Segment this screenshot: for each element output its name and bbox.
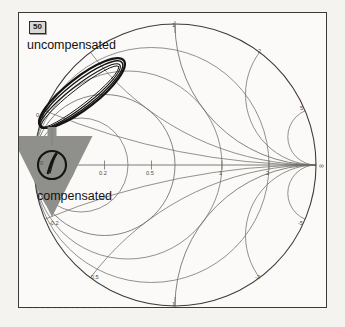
boundary-label-2-lower: -2 <box>255 274 260 280</box>
axis-ticks <box>105 21 270 307</box>
reactance-arc-p0p2 <box>19 13 326 165</box>
reactance-arc-p0p5 <box>34 13 326 165</box>
reactance-arc-p5 <box>288 109 326 165</box>
tick-label-2: 2 <box>266 170 269 176</box>
boundary-label-bottom-1: 1 <box>172 301 175 307</box>
reactance-arc-n1 <box>175 165 326 307</box>
compensated-label: compensated <box>37 189 112 203</box>
reference-impedance-badge: 50 <box>29 21 46 34</box>
tick-label-1: 1 <box>219 170 222 176</box>
boundary-label-5-upper: 5 <box>300 105 303 111</box>
trace-uncompensated <box>31 48 134 138</box>
uncompensated-label: uncompensated <box>27 38 116 52</box>
tick-label-infinity: ∞ <box>319 162 324 169</box>
boundary-label-2-upper: 2 <box>258 48 261 54</box>
reactance-arc-n5 <box>288 165 326 221</box>
compensated-origin-label: 0 <box>40 160 43 166</box>
boundary-label-top-1: 1 <box>172 22 175 28</box>
boundary-label-5-lower: -5 <box>298 220 303 226</box>
reactance-arc-n0p5 <box>34 165 326 307</box>
smith-chart-graphic: 0.2 0.5 1 2 ∞ 1 1 2 5 -5 -2 -0.2 -0.5 0 <box>19 13 326 307</box>
tick-label-0p2: 0.2 <box>99 170 107 176</box>
origin-label-upper-left: 0 <box>36 112 39 118</box>
reactance-arc-p1 <box>175 13 326 165</box>
boundary-label-0p2-lower: -0.2 <box>49 220 59 226</box>
figure-frame: 0.2 0.5 1 2 ∞ 1 1 2 5 -5 -2 -0.2 -0.5 0 <box>18 12 327 308</box>
reactance-arc-n0p2 <box>19 165 326 307</box>
boundary-label-0p5-lower: -0.5 <box>89 274 99 280</box>
tick-label-0p5: 0.5 <box>146 170 154 176</box>
